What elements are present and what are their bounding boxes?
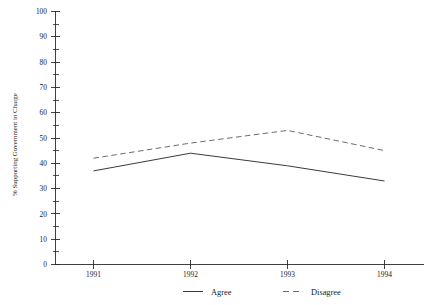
y-tick-label: 80	[40, 58, 48, 67]
y-tick-label: 30	[40, 184, 48, 193]
legend-label-agree: Agree	[211, 288, 232, 297]
y-tick-label: 90	[40, 32, 48, 41]
chart-background	[0, 0, 435, 305]
y-tick-label: 100	[36, 7, 47, 16]
x-tick-label: 1992	[183, 270, 198, 279]
legend-label-disagree: Disagree	[311, 288, 341, 297]
x-tick-label: 1991	[86, 270, 101, 279]
y-tick-label: 40	[40, 159, 48, 168]
y-tick-label: 0	[43, 260, 47, 269]
y-tick-label: 70	[40, 83, 48, 92]
y-axis-title: % Supporting Government in Charge	[11, 93, 18, 196]
line-chart: 100 90 80 70 60 50 40 30 20 10 0 % Suppo…	[0, 0, 435, 305]
x-tick-label: 1993	[280, 270, 295, 279]
chart-canvas: 100 90 80 70 60 50 40 30 20 10 0 % Suppo…	[0, 0, 435, 305]
x-tick-label: 1994	[377, 270, 392, 279]
y-tick-label: 60	[40, 108, 48, 117]
y-tick-label: 20	[40, 210, 48, 219]
y-tick-label: 50	[40, 134, 48, 143]
y-tick-label: 10	[40, 235, 48, 244]
